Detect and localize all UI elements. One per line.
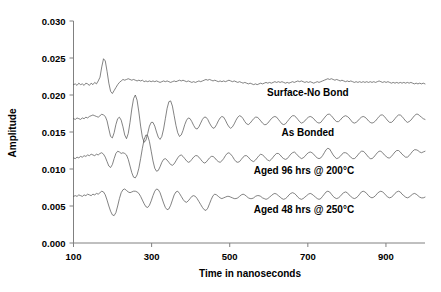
svg-text:900: 900 — [378, 251, 394, 262]
trace-1 — [74, 95, 426, 142]
series-labels: Surface-No BondAs BondedAged 96 hrs @ 20… — [254, 87, 354, 215]
svg-text:0.005: 0.005 — [42, 201, 66, 212]
x-axis-tick-labels: 100300500700900 — [66, 251, 394, 262]
series-label-3: Aged 48 hrs @ 250°C — [254, 204, 354, 215]
trace-3 — [74, 189, 426, 216]
svg-text:0.030: 0.030 — [42, 16, 66, 27]
svg-text:300: 300 — [144, 251, 160, 262]
svg-text:0.025: 0.025 — [42, 53, 66, 64]
series-label-2: Aged 96 hrs @ 200°C — [254, 165, 354, 176]
svg-text:100: 100 — [66, 251, 82, 262]
series-label-0: Surface-No Bond — [267, 87, 349, 98]
series-label-1: As Bonded — [281, 127, 334, 138]
svg-text:0.015: 0.015 — [42, 127, 66, 138]
y-axis-tick-labels: 0.0000.0050.0100.0150.0200.0250.030 — [42, 16, 66, 249]
svg-text:0.000: 0.000 — [42, 238, 66, 249]
data-traces — [74, 59, 426, 216]
trace-0 — [74, 59, 426, 94]
trace-2 — [74, 135, 426, 178]
x-axis-title: Time in nanoseconds — [199, 268, 301, 279]
svg-text:500: 500 — [222, 251, 238, 262]
y-axis-title: Amplitude — [7, 108, 18, 157]
svg-text:0.010: 0.010 — [42, 164, 66, 175]
waveform-chart: 0.0000.0050.0100.0150.0200.0250.030 1003… — [0, 0, 441, 292]
svg-text:700: 700 — [300, 251, 316, 262]
chart-container: 0.0000.0050.0100.0150.0200.0250.030 1003… — [0, 0, 441, 292]
svg-text:0.020: 0.020 — [42, 90, 66, 101]
axis-lines — [74, 21, 426, 243]
